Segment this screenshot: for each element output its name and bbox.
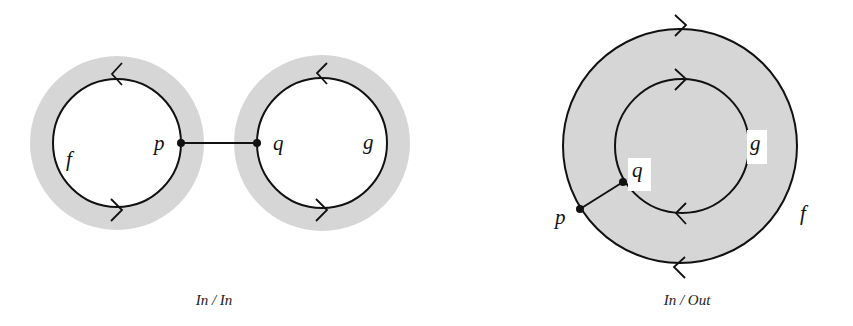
- point-p: [177, 139, 185, 147]
- point-q: [619, 178, 627, 186]
- caption-in-out: In / Out: [663, 292, 711, 308]
- label-f: f: [800, 201, 809, 225]
- label-p: p: [553, 205, 566, 229]
- label-q: q: [273, 131, 284, 155]
- panel-in-in: p q f g In / In: [30, 55, 410, 308]
- point-p: [576, 205, 584, 213]
- caption-in-in: In / In: [195, 292, 233, 308]
- figure: p q f g In / In q g p f In / Out: [0, 0, 853, 326]
- label-q: q: [632, 158, 643, 182]
- label-p: p: [152, 131, 165, 155]
- panel-in-out: q g p f In / Out: [553, 15, 809, 308]
- label-g: g: [750, 131, 761, 155]
- point-q: [253, 139, 261, 147]
- label-g: g: [363, 130, 374, 154]
